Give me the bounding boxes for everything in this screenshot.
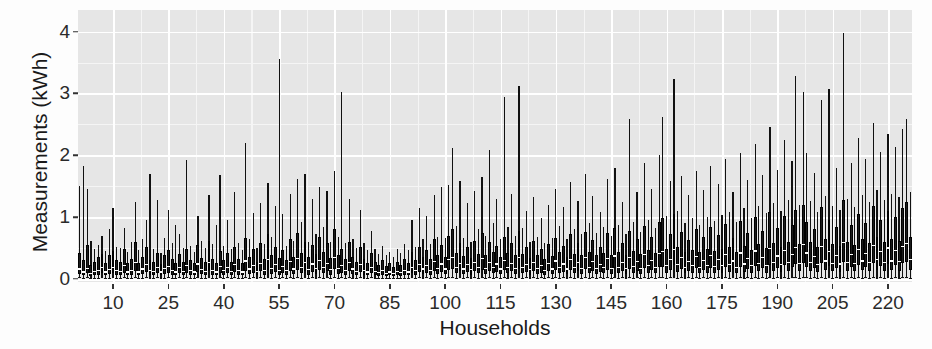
boxplot-cap-lower — [407, 278, 410, 279]
boxplot-cap-lower — [126, 278, 129, 279]
boxplot-box — [846, 242, 849, 271]
boxplot-box — [909, 237, 912, 270]
boxplot-box — [621, 243, 624, 271]
boxplot-box — [348, 242, 351, 272]
boxplot-cap-lower — [580, 278, 583, 279]
boxplot-median — [204, 271, 207, 272]
boxplot-cap-lower — [473, 277, 476, 278]
boxplot-box — [492, 252, 495, 274]
boxplot-cap-lower — [650, 277, 653, 278]
boxplot-median — [488, 262, 491, 263]
boxplot-box — [440, 245, 443, 272]
boxplot-cap-lower — [219, 277, 222, 278]
x-axis-tick-label: 190 — [752, 292, 802, 314]
boxplot-box — [816, 247, 819, 272]
boxplot-cap-lower — [399, 278, 402, 279]
boxplot-box — [824, 239, 827, 270]
boxplot-cap-lower — [909, 278, 912, 279]
boxplot-median — [337, 268, 340, 269]
boxplot-cap-lower — [595, 278, 598, 279]
boxplot-median — [580, 268, 583, 269]
boxplot-box — [241, 263, 244, 275]
boxplot-cap-lower — [632, 278, 635, 279]
boxplot-box — [876, 237, 879, 270]
boxplot-median — [126, 271, 129, 272]
boxplot-cap-lower — [820, 277, 823, 278]
boxplot-cap-lower — [798, 278, 801, 279]
boxplot-box — [768, 212, 771, 265]
boxplot-median — [591, 261, 594, 262]
boxplot-box — [842, 200, 845, 262]
boxplot-median — [839, 263, 842, 264]
boxplot-box — [650, 237, 653, 270]
boxplot-median — [141, 268, 144, 269]
boxplot-median — [366, 271, 369, 272]
boxplot-box — [724, 224, 727, 267]
boxplot-median — [746, 258, 749, 259]
boxplot-cap-lower — [876, 278, 879, 279]
boxplot-cap-lower — [599, 277, 602, 278]
boxplot-cap-lower — [554, 277, 557, 278]
boxplot-box — [267, 234, 270, 270]
boxplot-cap-lower — [300, 278, 303, 279]
boxplot-box — [547, 244, 550, 271]
boxplot-median — [363, 270, 366, 271]
boxplot-median — [178, 267, 181, 268]
boxplot-cap-lower — [809, 278, 812, 279]
boxplot-median — [241, 271, 244, 272]
boxplot-median — [654, 267, 657, 268]
boxplot-median — [193, 271, 196, 272]
boxplot-median — [123, 265, 126, 266]
boxplot-cap-lower — [853, 278, 856, 279]
boxplot-box — [732, 238, 735, 270]
gridline-horizontal-major — [78, 93, 912, 95]
boxplot-cap-lower — [602, 278, 605, 279]
boxplot-cap-lower — [326, 277, 329, 278]
boxplot-box — [307, 257, 310, 274]
boxplot-median — [274, 264, 277, 265]
boxplot-cap-lower — [211, 278, 214, 279]
boxplot-cap-lower — [488, 277, 491, 278]
boxplot-box — [721, 249, 724, 273]
boxplot-cap-lower — [285, 278, 288, 279]
boxplot-box — [160, 264, 163, 275]
boxplot-box — [252, 249, 255, 272]
boxplot-box — [805, 222, 808, 267]
boxplot-median — [160, 271, 163, 272]
x-axis-tick-label: 145 — [586, 292, 636, 314]
boxplot-cap-lower — [145, 277, 148, 278]
boxplot-cap-lower — [337, 278, 340, 279]
boxplot-box — [691, 250, 694, 273]
boxplot-median — [857, 249, 860, 250]
boxplot-cap-lower — [385, 278, 388, 279]
boxplot-box — [639, 254, 642, 274]
boxplot-median — [230, 271, 233, 272]
boxplot-box — [625, 255, 628, 274]
boxplot-box — [584, 232, 587, 269]
boxplot-box — [588, 252, 591, 274]
boxplot-box — [97, 257, 100, 274]
boxplot-cap-lower — [348, 277, 351, 278]
boxplot-box — [466, 247, 469, 272]
boxplot-box — [499, 257, 502, 274]
boxplot-median — [115, 270, 118, 271]
boxplot-box — [735, 252, 738, 274]
boxplot-cap-lower — [459, 277, 462, 278]
boxplot-median — [676, 264, 679, 265]
boxplot-box — [344, 259, 347, 274]
boxplot-median — [407, 271, 410, 272]
boxplot-box — [772, 243, 775, 271]
boxplot-cap-lower — [315, 278, 318, 279]
boxplot-median — [643, 254, 646, 255]
boxplot-cap-lower — [108, 278, 111, 279]
boxplot-cap-lower — [411, 277, 414, 278]
boxplot-cap-lower — [654, 278, 657, 279]
boxplot-median — [702, 260, 705, 261]
boxplot-cap-lower — [244, 277, 247, 278]
boxplot-median — [296, 258, 299, 259]
x-axis-tick-label: 85 — [365, 292, 415, 314]
boxplot-cap-lower — [842, 277, 845, 278]
boxplot-cap-lower — [687, 277, 690, 278]
boxplot-median — [396, 271, 399, 272]
boxplot-cap-lower — [739, 277, 742, 278]
